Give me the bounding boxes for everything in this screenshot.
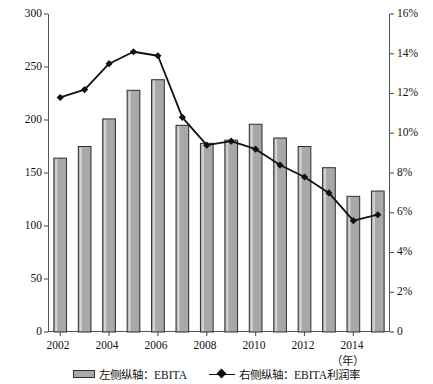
legend-label-ebita-margin: 右侧纵轴：EBITA利润率 (239, 366, 360, 382)
legend-item-ebita[interactable]: 左侧纵轴：EBITA (73, 366, 187, 382)
axis-tick-marks (44, 14, 394, 336)
ebita-chart: （百万英镑） （年） 300 250 200 150 100 50 0 16% … (0, 0, 433, 384)
bar-swatch-icon (73, 370, 95, 378)
line-diamond-swatch-icon (209, 370, 235, 379)
legend: 左侧纵轴：EBITA 右侧纵轴：EBITA利润率 (0, 366, 433, 382)
legend-label-ebita: 左侧纵轴：EBITA (99, 366, 187, 382)
bar-series-ebita (54, 80, 384, 332)
chart-graphics (0, 0, 433, 384)
legend-item-ebita-margin[interactable]: 右侧纵轴：EBITA利润率 (209, 366, 360, 382)
